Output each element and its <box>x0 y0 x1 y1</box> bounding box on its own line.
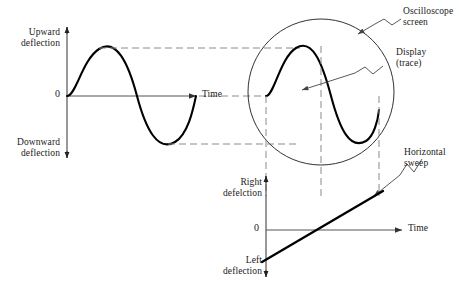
horizontal-sweep-line1: Horizontal <box>404 147 446 157</box>
sweep-plot-origin-label: 0 <box>245 223 259 234</box>
right-deflection-line2: defelction <box>223 188 262 198</box>
vertical-plot-time-label: Time <box>202 89 222 100</box>
left-deflection-line2: deflection <box>223 266 262 276</box>
right-deflection-label: Right defelction <box>206 177 262 198</box>
oscilloscope-screen-line1: Oscilloscope <box>403 6 453 16</box>
display-trace-line2: (trace) <box>396 58 421 68</box>
left-deflection-line1: Left <box>246 255 262 265</box>
vertical-plot-axes <box>67 27 196 158</box>
horizontal-sweep-line2: sweep <box>404 158 428 168</box>
screen-callout-zigzag <box>375 19 401 25</box>
sweep-ramp-line <box>262 191 383 262</box>
display-trace-line1: Display <box>396 47 426 57</box>
upward-deflection-line1: Upward <box>29 27 60 37</box>
input-sine-waveform <box>67 46 196 144</box>
right-deflection-line1: Right <box>240 177 262 187</box>
display-callout-zigzag <box>355 66 383 74</box>
screen-callout-leader <box>358 24 375 34</box>
oscilloscope-screen-line2: screen <box>403 17 428 27</box>
oscilloscope-screen-label: Oscilloscope screen <box>403 6 453 27</box>
upward-deflection-line2: deflection <box>21 38 60 48</box>
diagram-canvas <box>0 0 459 285</box>
horizontal-sweep-label: Horizontal sweep <box>404 147 446 168</box>
sweep-plot-time-label: Time <box>408 223 428 234</box>
display-trace-label: Display (trace) <box>396 47 426 68</box>
vertical-plot-origin-label: 0 <box>46 89 60 100</box>
left-deflection-label: Left deflection <box>206 255 262 276</box>
oscilloscope-diagram: Upward deflection Downward deflection 0 … <box>0 0 459 285</box>
upward-deflection-label: Upward deflection <box>0 27 60 48</box>
downward-deflection-line2: deflection <box>21 148 60 158</box>
display-trace-waveform <box>266 46 379 143</box>
downward-deflection-line1: Downward <box>17 137 60 147</box>
downward-deflection-label: Downward deflection <box>0 137 60 158</box>
